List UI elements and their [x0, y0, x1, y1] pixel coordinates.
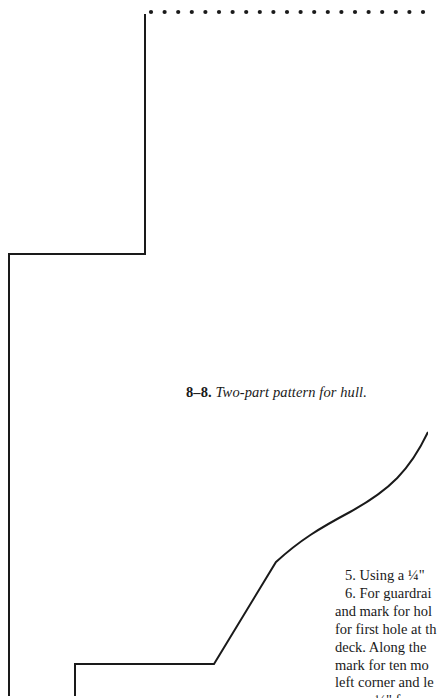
- text-line-cut: ¼" f: [335, 692, 441, 698]
- instructions-text: 5. Using a ¼" 6. For guardrai and mark f…: [335, 567, 441, 698]
- text-line: and mark for hol: [335, 603, 441, 621]
- figure-title: Two-part pattern for hull.: [216, 384, 367, 400]
- text-line: 5. Using a ¼": [335, 567, 441, 585]
- figure-number: 8–8.: [186, 384, 212, 400]
- text-line: 6. For guardrai: [335, 585, 441, 603]
- text-line: deck. Along the: [335, 639, 441, 657]
- text-line: left corner and le: [335, 674, 441, 692]
- text-line: for first hole at th: [335, 621, 441, 639]
- figure-caption: 8–8. Two-part pattern for hull.: [186, 384, 367, 401]
- hull-outline-upper: [9, 14, 145, 696]
- text-line: mark for ten mo: [335, 657, 441, 675]
- fold-line-dots: [149, 10, 425, 14]
